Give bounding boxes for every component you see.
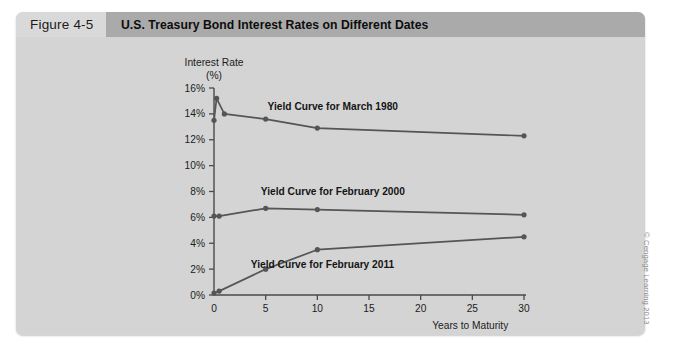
- figure-title-box: U.S. Treasury Bond Interest Rates on Dif…: [106, 12, 645, 37]
- data-point: [315, 207, 320, 212]
- x-tick-label: 20: [415, 303, 427, 314]
- data-point: [315, 247, 320, 252]
- y-tick-label: 10%: [185, 160, 205, 171]
- x-tick-label: 0: [211, 303, 217, 314]
- y-tick-label: 0%: [190, 290, 205, 301]
- data-point: [263, 206, 268, 211]
- y-tick-label: 2%: [190, 264, 205, 275]
- data-point: [521, 133, 526, 138]
- plot-body: Interest Rate (%) 0%2%4%6%8%10%12%14%16%…: [16, 37, 645, 335]
- x-tick-label: 5: [263, 303, 269, 314]
- figure-header: Figure 4-5 U.S. Treasury Bond Interest R…: [16, 12, 645, 37]
- series-label: Yield Curve for February 2000: [261, 186, 405, 197]
- figure-root: Figure 4-5 U.S. Treasury Bond Interest R…: [0, 0, 678, 352]
- x-tick-label: 10: [312, 303, 324, 314]
- y-tick-label: 4%: [190, 238, 205, 249]
- x-tick-label: 15: [363, 303, 375, 314]
- data-point: [315, 126, 320, 131]
- x-axis-title: Years to Maturity: [432, 320, 509, 331]
- yield-curve-chart: 0%2%4%6%8%10%12%14%16%051015202530Years …: [16, 37, 645, 335]
- figure-number-label: Figure 4-5: [30, 17, 94, 32]
- data-point: [214, 96, 219, 101]
- copyright-notice: © Cengage Learning 2013: [642, 232, 651, 325]
- data-point: [217, 289, 222, 294]
- figure-title-text: U.S. Treasury Bond Interest Rates on Dif…: [121, 18, 428, 32]
- data-point: [211, 213, 216, 218]
- y-tick-label: 14%: [185, 108, 205, 119]
- data-point: [211, 118, 216, 123]
- y-tick-label: 6%: [190, 212, 205, 223]
- series-label: Yield Curve for February 2011: [251, 259, 395, 270]
- data-point: [211, 290, 216, 295]
- x-tick-label: 30: [518, 303, 530, 314]
- data-point: [521, 234, 526, 239]
- figure-number-box: Figure 4-5: [16, 12, 106, 37]
- series-line: [214, 208, 524, 216]
- y-tick-label: 8%: [190, 186, 205, 197]
- figure-panel: Figure 4-5 U.S. Treasury Bond Interest R…: [16, 12, 645, 335]
- data-point: [222, 111, 227, 116]
- data-point: [521, 212, 526, 217]
- data-point: [217, 213, 222, 218]
- series-label: Yield Curve for March 1980: [268, 101, 399, 112]
- x-tick-label: 25: [467, 303, 479, 314]
- data-point: [263, 116, 268, 121]
- y-tick-label: 16%: [185, 83, 205, 94]
- y-tick-label: 12%: [185, 134, 205, 145]
